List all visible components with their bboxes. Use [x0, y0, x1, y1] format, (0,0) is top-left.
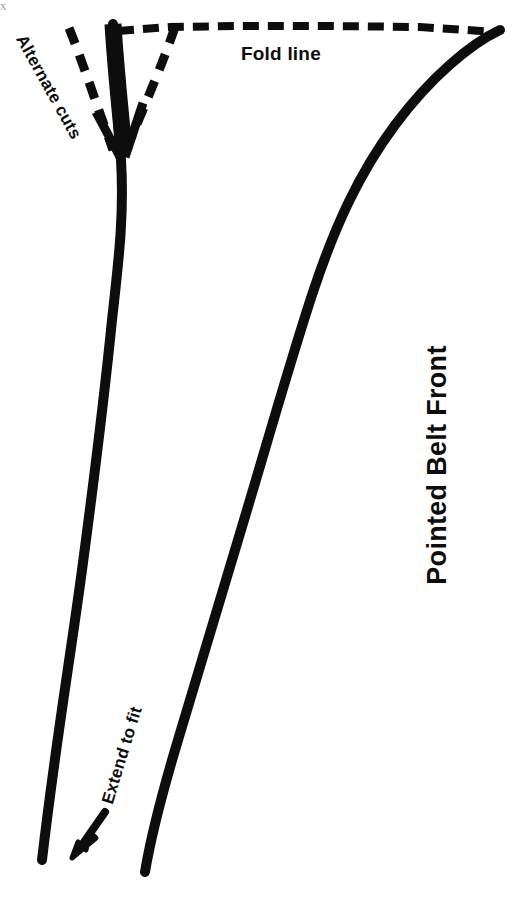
fold-line-label: Fold line [241, 44, 321, 63]
pattern-drawing [0, 0, 532, 909]
extend-to-fit-arrow [72, 812, 105, 858]
pattern-sheet: X F [0, 0, 532, 909]
pointed-belt-front-label: Pointed Belt Front [424, 345, 451, 584]
